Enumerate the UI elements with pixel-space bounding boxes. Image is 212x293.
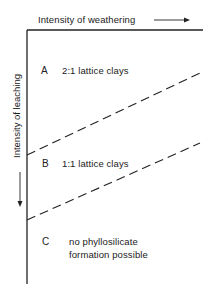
zone-a-letter: A <box>41 65 48 76</box>
x-arrowhead-icon <box>184 18 190 23</box>
y-axis-label: Intensity of leaching <box>11 61 23 171</box>
zone-a-label: 2:1 lattice clays <box>62 65 129 76</box>
x-axis-label: Intensity of weathering <box>38 14 135 25</box>
zone-c-label-line1: no phyllosilicate <box>69 236 138 247</box>
boundary-bc-dashed-line <box>27 143 200 220</box>
boundary-ab-dashed-line <box>27 73 200 155</box>
zone-b-label: 1:1 lattice clays <box>62 158 129 169</box>
zone-c-letter: C <box>42 236 49 247</box>
zone-b-letter: B <box>42 158 49 169</box>
y-arrowhead-icon <box>18 201 23 207</box>
zone-c-label-line2: formation possible <box>69 249 148 260</box>
